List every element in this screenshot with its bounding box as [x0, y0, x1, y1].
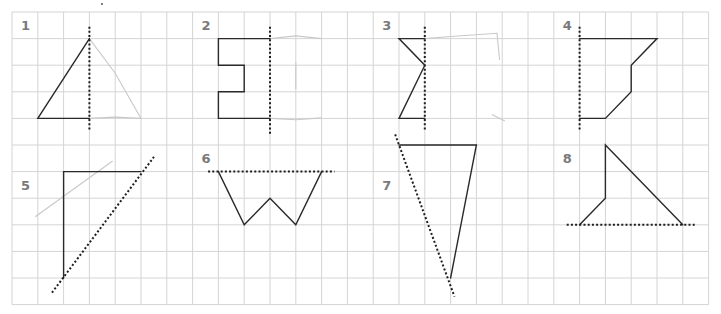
exercise-number-label: 5 — [21, 179, 30, 192]
reflection-worksheet: 12345678 — [0, 0, 721, 314]
exercise-number-label: 6 — [202, 152, 211, 165]
faint-reflection-3 — [492, 114, 505, 121]
stray-pencil-dot — [101, 3, 103, 5]
exercise-number-label: 8 — [563, 152, 572, 165]
shape-7 — [399, 145, 476, 278]
stray-marks — [101, 3, 103, 5]
exercise-number-label: 1 — [21, 19, 30, 32]
grid-canvas — [0, 0, 721, 314]
faint-reflection-3 — [425, 33, 500, 60]
exercise-number-label: 4 — [563, 19, 572, 32]
exercise-number-label: 3 — [382, 19, 391, 32]
mirror-lines — [52, 27, 696, 297]
shape-3 — [399, 39, 425, 119]
grid-lines — [12, 12, 709, 305]
exercise-number-label: 7 — [382, 179, 391, 192]
shape-4 — [580, 39, 657, 119]
faint-reflection-5 — [35, 161, 112, 217]
exercise-number-label: 2 — [202, 19, 211, 32]
exercise-shapes — [38, 39, 683, 278]
